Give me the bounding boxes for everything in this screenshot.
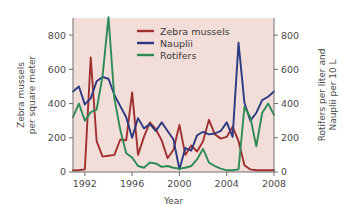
y-tick-label-right: 200 xyxy=(281,132,299,143)
y-tick-label-left: 0 xyxy=(60,166,66,177)
y-tick-label-right: 0 xyxy=(281,166,287,177)
x-axis-title: Year xyxy=(163,196,183,206)
x-tick-label: 1996 xyxy=(120,178,144,189)
line-chart: 0200400600800020040060080019921996200020… xyxy=(0,0,364,217)
y-axis-right-title-line2: Nauplii per 10 L xyxy=(328,59,338,130)
legend-label-rotifers: Rotifers xyxy=(160,50,196,61)
legend-label-zebra-mussels: Zebra mussels xyxy=(160,26,230,37)
x-tick-label: 1992 xyxy=(73,178,97,189)
y-tick-label-right: 400 xyxy=(281,98,299,109)
legend-label-nauplii: Nauplii xyxy=(160,38,193,49)
y-tick-label-right: 600 xyxy=(281,64,299,75)
y-axis-left-title-line1: Zebra mussels xyxy=(16,62,26,128)
y-tick-label-left: 200 xyxy=(48,132,66,143)
y-tick-label-left: 800 xyxy=(48,30,66,41)
y-tick-label-right: 800 xyxy=(281,30,299,41)
x-tick-label: 2004 xyxy=(215,178,239,189)
chart-figure: 0200400600800020040060080019921996200020… xyxy=(0,0,364,217)
y-tick-label-left: 600 xyxy=(48,64,66,75)
x-tick-label: 2008 xyxy=(262,178,286,189)
y-axis-left-title-line2: per square meter xyxy=(27,56,37,135)
x-tick-label: 2000 xyxy=(167,178,191,189)
y-axis-right-title-line1: Rotifers per liter and xyxy=(317,49,327,142)
y-tick-label-left: 400 xyxy=(48,98,66,109)
